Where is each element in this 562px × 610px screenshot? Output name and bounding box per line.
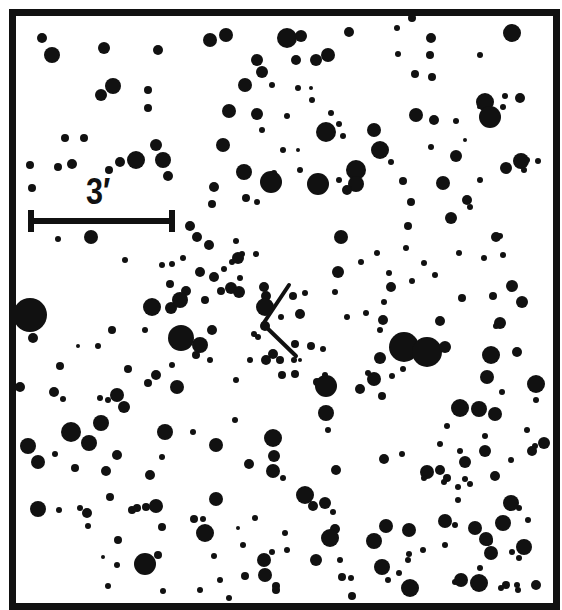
star xyxy=(201,296,209,304)
star xyxy=(524,157,530,163)
star xyxy=(209,182,219,192)
star xyxy=(538,437,550,449)
star xyxy=(149,499,163,513)
star xyxy=(321,529,339,547)
star xyxy=(236,526,240,530)
star xyxy=(386,282,396,292)
star xyxy=(98,42,110,54)
star xyxy=(363,310,369,316)
star xyxy=(54,163,62,171)
star xyxy=(445,212,457,224)
star xyxy=(256,66,268,78)
star xyxy=(436,176,450,190)
star xyxy=(226,595,232,601)
star xyxy=(429,115,439,125)
star xyxy=(233,286,245,298)
star xyxy=(371,141,389,159)
star xyxy=(471,401,487,417)
star xyxy=(269,549,275,555)
star xyxy=(516,296,528,308)
star xyxy=(310,54,322,66)
star xyxy=(134,553,156,575)
star xyxy=(512,347,522,357)
star xyxy=(80,134,88,142)
star xyxy=(221,266,227,272)
star xyxy=(455,484,461,490)
star xyxy=(319,497,331,509)
star xyxy=(44,47,60,63)
star xyxy=(37,33,47,43)
star xyxy=(344,314,350,320)
star xyxy=(170,380,184,394)
star xyxy=(114,536,122,544)
star xyxy=(404,222,412,230)
star xyxy=(153,45,163,55)
star xyxy=(114,562,120,568)
star xyxy=(185,221,195,231)
star xyxy=(459,456,471,468)
scale-bar-tick-left xyxy=(28,210,34,232)
star xyxy=(122,257,128,263)
star xyxy=(531,580,541,590)
star xyxy=(289,292,297,300)
star xyxy=(439,341,451,353)
star xyxy=(76,344,80,348)
star xyxy=(420,547,426,553)
star xyxy=(197,587,203,593)
star xyxy=(482,346,500,364)
star xyxy=(516,539,532,555)
star xyxy=(233,238,239,244)
star xyxy=(280,475,286,481)
star xyxy=(28,184,36,192)
star xyxy=(389,373,395,379)
star xyxy=(242,194,250,202)
star xyxy=(110,388,124,402)
star xyxy=(81,435,97,451)
star xyxy=(169,261,175,267)
star xyxy=(435,465,445,475)
scale-bar-line xyxy=(31,218,172,224)
star xyxy=(150,139,162,151)
star xyxy=(159,262,165,268)
star xyxy=(310,554,322,566)
star xyxy=(105,583,111,589)
star xyxy=(452,522,458,528)
star xyxy=(365,370,371,376)
star xyxy=(97,395,103,401)
star xyxy=(291,370,299,378)
star xyxy=(332,289,338,295)
star xyxy=(67,159,77,169)
star xyxy=(477,177,483,183)
star xyxy=(381,299,387,305)
star xyxy=(295,309,305,319)
star xyxy=(503,495,519,511)
star xyxy=(481,255,487,261)
star xyxy=(196,524,214,542)
star xyxy=(297,167,303,173)
star xyxy=(254,199,260,205)
star xyxy=(163,171,173,181)
star xyxy=(268,450,280,462)
star xyxy=(166,280,174,288)
star xyxy=(405,557,411,563)
star xyxy=(238,78,252,92)
star xyxy=(298,358,302,362)
star xyxy=(309,97,315,103)
star xyxy=(133,504,141,512)
star xyxy=(106,493,114,501)
star xyxy=(385,577,391,583)
star xyxy=(61,134,69,142)
star xyxy=(490,471,500,481)
star xyxy=(470,574,488,592)
star xyxy=(264,429,282,447)
star xyxy=(453,118,459,124)
star xyxy=(291,340,299,348)
star xyxy=(394,25,400,31)
star xyxy=(84,230,98,244)
star xyxy=(118,401,130,413)
star xyxy=(342,185,352,195)
star xyxy=(421,475,427,481)
star xyxy=(261,355,271,365)
star xyxy=(203,33,217,47)
